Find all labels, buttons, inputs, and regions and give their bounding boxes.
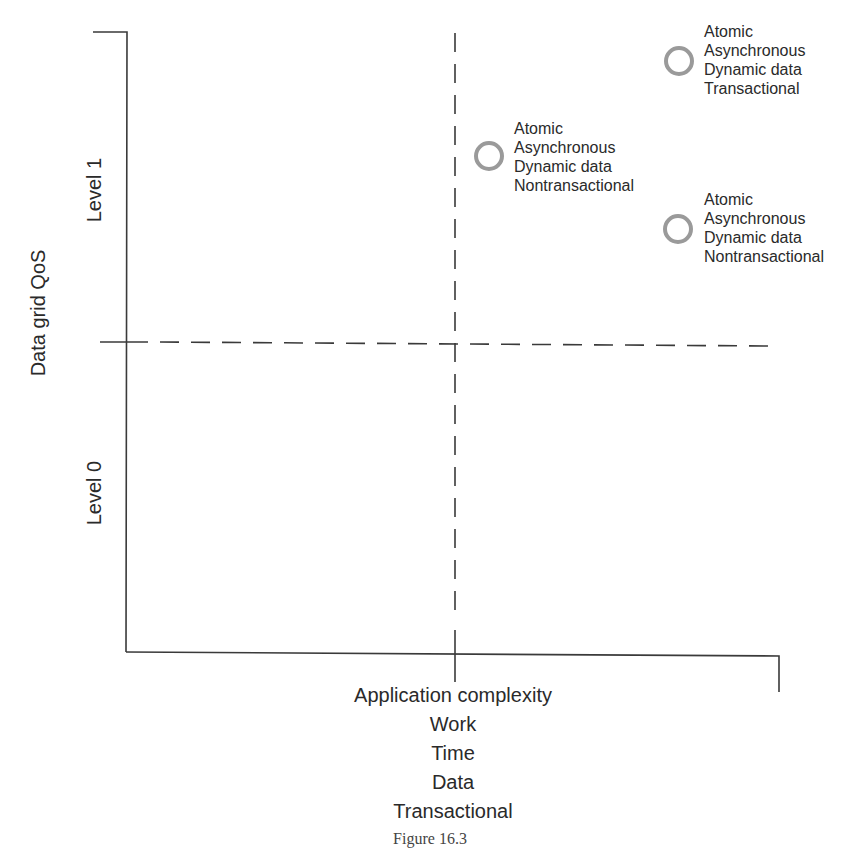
point-label-line: Nontransactional (514, 176, 634, 195)
point-label-p1: Atomic Asynchronous Dynamic data Nontran… (514, 119, 634, 195)
point-label-line: Nontransactional (704, 247, 824, 266)
marker-circle-icon (476, 143, 502, 169)
point-label-line: Asynchronous (704, 41, 805, 60)
x-axis-title-line: Time (354, 739, 552, 768)
point-label-line: Dynamic data (514, 157, 634, 176)
point-label-line: Asynchronous (704, 209, 824, 228)
point-label-line: Dynamic data (704, 60, 805, 79)
marker-circle-icon (666, 48, 692, 74)
point-label-line: Atomic (704, 22, 805, 41)
point-label-line: Dynamic data (704, 228, 824, 247)
y-level-1-label: Level 1 (83, 158, 106, 223)
point-label-line: Atomic (514, 119, 634, 138)
marker-circle-icon (665, 216, 691, 242)
x-axis-title-line: Transactional (354, 797, 552, 826)
point-label-p3: Atomic Asynchronous Dynamic data Nontran… (704, 190, 824, 266)
x-axis-title-line: Application complexity (354, 681, 552, 710)
point-label-line: Transactional (704, 79, 805, 98)
x-axis-title: Application complexity Work Time Data Tr… (354, 681, 552, 826)
y-level-0-label: Level 0 (83, 461, 106, 526)
point-label-line: Atomic (704, 190, 824, 209)
horizontal-divider-dashed (160, 342, 770, 346)
x-axis-title-line: Work (354, 710, 552, 739)
figure-caption: Figure 16.3 (393, 830, 467, 848)
point-label-line: Asynchronous (514, 138, 634, 157)
point-label-p2: Atomic Asynchronous Dynamic data Transac… (704, 22, 805, 98)
y-axis-title: Data grid QoS (27, 250, 50, 377)
x-axis-title-line: Data (354, 768, 552, 797)
